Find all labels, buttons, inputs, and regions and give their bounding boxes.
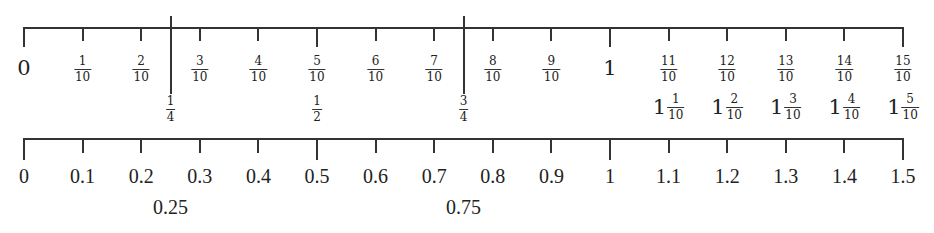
decimal-quarter-label: 0.75 (446, 197, 481, 217)
fraction: 110 (667, 93, 684, 121)
bottom-tick (785, 138, 787, 153)
whole-number: 1 (603, 56, 616, 80)
mixed-whole: 1 (653, 97, 666, 118)
bottom-tick (375, 138, 377, 153)
numerator: 3 (788, 93, 798, 107)
denominator: 10 (726, 107, 743, 122)
fraction: 810 (484, 55, 501, 83)
numerator: 1 (312, 95, 322, 109)
top-tick (785, 27, 787, 41)
top-tick (316, 27, 318, 47)
fraction: 12 (312, 95, 322, 123)
top-tick (257, 27, 259, 41)
mixed-number: 1310 (770, 93, 802, 121)
numerator: 12 (719, 55, 736, 69)
bottom-tick (140, 138, 142, 153)
denominator: 10 (367, 69, 384, 84)
top-fraction-label: 1510 (894, 55, 911, 83)
bottom-tick (609, 138, 611, 160)
decimal-label: 0.3 (187, 166, 212, 186)
top-tick (199, 27, 201, 41)
mixed-whole: 1 (887, 97, 900, 118)
numerator: 1 (166, 95, 176, 109)
numerator: 3 (459, 95, 469, 109)
top-tick (609, 27, 611, 47)
top-fraction-label: 0 (17, 58, 30, 79)
mixed-number: 1210 (711, 93, 743, 121)
decimal-label: 0.1 (70, 166, 95, 186)
decimal-label: 1 (605, 166, 615, 186)
numerator: 3 (195, 55, 205, 69)
numerator: 5 (905, 93, 915, 107)
top-tick (843, 27, 845, 41)
decimal-label: 0.9 (539, 166, 564, 186)
top-fraction-label: 610 (367, 55, 384, 83)
top-fraction-label: 910 (543, 55, 560, 83)
fraction: 1410 (836, 55, 853, 83)
numerator: 4 (847, 93, 857, 107)
numerator: 8 (488, 55, 498, 69)
top-tick (550, 27, 552, 41)
denominator: 10 (191, 69, 208, 84)
denominator: 2 (312, 109, 322, 124)
number-line-diagram: 0110210310410510610710810910111101210131… (0, 0, 934, 233)
numerator: 2 (136, 55, 146, 69)
top-fraction-label: 710 (426, 55, 443, 83)
top-second-row-label: 1310 (770, 93, 802, 121)
denominator: 10 (902, 107, 919, 122)
bottom-tick (902, 138, 904, 160)
whole-number: 0 (17, 56, 30, 80)
numerator: 11 (660, 55, 677, 69)
fraction: 310 (784, 93, 801, 121)
denominator: 10 (543, 69, 560, 84)
numerator: 7 (429, 55, 439, 69)
fraction: 310 (191, 55, 208, 83)
top-tick (375, 27, 377, 41)
numerator: 5 (312, 55, 322, 69)
top-tick (23, 27, 25, 47)
denominator: 10 (426, 69, 443, 84)
numerator: 1 (78, 55, 88, 69)
denominator: 10 (836, 69, 853, 84)
fraction: 210 (726, 93, 743, 121)
mixed-whole: 1 (711, 97, 724, 118)
top-tick (82, 27, 84, 41)
bottom-tick (843, 138, 845, 153)
top-second-row-label: 12 (312, 95, 322, 123)
denominator: 10 (784, 107, 801, 122)
fraction: 610 (367, 55, 384, 83)
top-second-row-label: 1410 (829, 93, 861, 121)
top-fraction-label: 210 (133, 55, 150, 83)
fraction: 1210 (719, 55, 736, 83)
bottom-tick (550, 138, 552, 153)
top-tick (668, 27, 670, 41)
bottom-tick (726, 138, 728, 153)
decimal-label: 0.5 (305, 166, 330, 186)
numerator: 2 (730, 93, 740, 107)
decimal-label: 1.1 (656, 166, 681, 186)
fraction: 34 (459, 95, 469, 123)
quarter-long-tick (170, 16, 172, 94)
decimal-label: 0.6 (363, 166, 388, 186)
top-second-row-label: 1210 (711, 93, 743, 121)
top-second-row-label: 1110 (653, 93, 685, 121)
numerator: 4 (254, 55, 264, 69)
decimal-label: 0.8 (480, 166, 505, 186)
fraction: 110 (74, 55, 91, 83)
denominator: 10 (250, 69, 267, 84)
top-fraction-label: 1 (603, 58, 616, 79)
fraction: 1310 (777, 55, 794, 83)
top-fraction-label: 810 (484, 55, 501, 83)
denominator: 4 (166, 109, 176, 124)
numerator: 13 (777, 55, 794, 69)
decimal-label: 0.4 (246, 166, 271, 186)
denominator: 4 (459, 109, 469, 124)
fraction: 410 (843, 93, 860, 121)
denominator: 10 (660, 69, 677, 84)
bottom-tick (257, 138, 259, 153)
numerator: 9 (547, 55, 557, 69)
top-second-row-label: 14 (166, 95, 176, 123)
decimal-label: 1.4 (832, 166, 857, 186)
decimal-label: 1.5 (891, 166, 916, 186)
mixed-number: 1110 (653, 93, 685, 121)
